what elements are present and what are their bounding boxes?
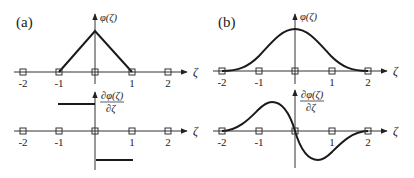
tick-label: -2 [217,136,226,148]
derivative-numerator: ∂φ(ζ) [101,90,124,102]
panel-label-a: (a) [16,14,33,31]
derivative-numerator: ∂φ(ζ) [301,89,324,101]
tick-label: 1 [329,76,335,88]
derivative-denominator: ∂ζ [306,102,316,114]
y-axis-label: φ(ζ) [300,11,318,23]
derivative-denominator: ∂ζ [106,103,116,115]
x-axis-label: ζ [393,124,399,138]
tick-label: 2 [365,76,371,88]
x-axis-label: ζ [193,65,199,79]
tick-label: 2 [365,136,371,148]
x-axis-label: ζ [193,124,199,138]
panel-b-top-plot: -2 -1 1 2 ζ φ(ζ) [213,11,399,88]
tick-label: 2 [165,77,171,89]
tick-label: -1 [254,76,263,88]
tick-label: -2 [18,136,27,148]
panel-a: (a) -2 -1 1 2 ζ φ(ζ) [14,12,199,170]
tick-label: 1 [129,136,135,148]
tick-label: -1 [54,77,63,89]
tick-label: -2 [217,76,226,88]
panel-a-top-plot: -2 -1 1 2 ζ φ(ζ) [14,12,199,89]
panel-b-bottom-plot: -2 -1 1 2 ζ ∂φ(ζ) ∂ζ [213,89,399,168]
tick-label: -1 [254,136,263,148]
tick-label: 1 [329,136,335,148]
basis-function-diagram: (a) -2 -1 1 2 ζ φ(ζ) [0,0,414,178]
tick-label: -1 [54,136,63,148]
tick-label: -2 [18,77,27,89]
panel-a-bottom-plot: -2 -1 1 2 ζ ∂φ(ζ) ∂ζ [14,90,199,170]
tick-label: 1 [129,77,135,89]
tick-label: 2 [165,136,171,148]
panel-label-b: (b) [218,14,236,31]
panel-b: (b) -2 -1 1 2 ζ φ(ζ) [213,11,399,168]
x-axis-label: ζ [393,64,399,78]
y-axis-label: φ(ζ) [100,12,118,24]
